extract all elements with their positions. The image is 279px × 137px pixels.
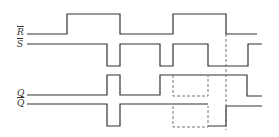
dashed-box-q [173, 75, 208, 96]
waveform-s-bar [27, 44, 262, 66]
dashed-box-q-bar [173, 106, 208, 127]
waveform-r-bar [27, 14, 257, 34]
timing-diagram [0, 0, 279, 137]
waveform-q [27, 75, 262, 96]
waveform-q-bar [27, 104, 173, 126]
waveform-q-bar-end [208, 106, 262, 126]
